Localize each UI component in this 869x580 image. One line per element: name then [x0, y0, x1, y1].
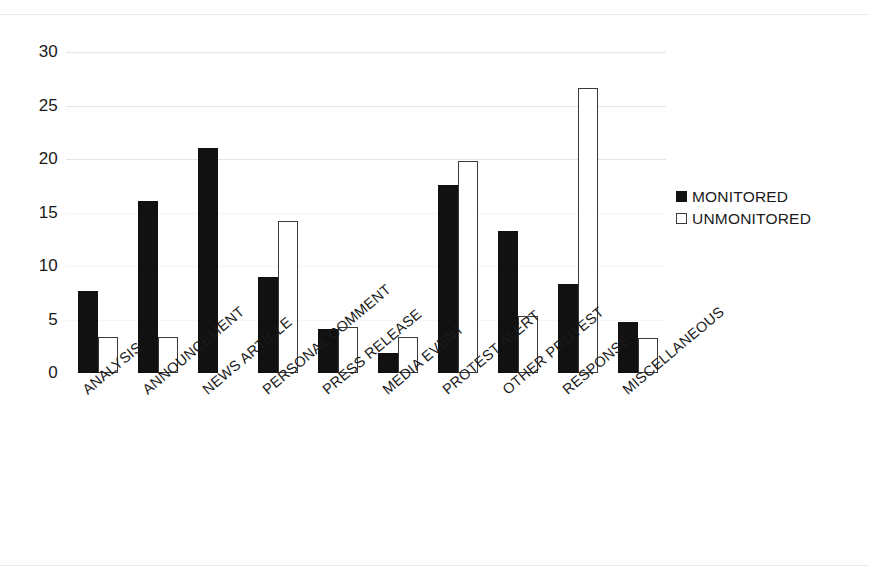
hollow-square-icon — [676, 213, 687, 224]
bar-group — [378, 52, 418, 373]
bar-unmonitored-press-release[interactable] — [338, 327, 358, 373]
y-axis-tick-15: 15 — [18, 204, 58, 221]
y-axis-tick-20: 20 — [18, 150, 58, 167]
bar-unmonitored-analysis[interactable] — [98, 337, 118, 373]
legend-item-unmonitored[interactable]: UNMONITORED — [676, 208, 811, 229]
bar-group — [558, 52, 598, 373]
y-axis-tick-5: 5 — [18, 311, 58, 328]
y-axis-tick-0: 0 — [18, 364, 58, 381]
y-axis-tick-10: 10 — [18, 257, 58, 274]
bar-monitored-miscellaneous[interactable] — [618, 322, 638, 373]
bar-group — [78, 52, 118, 373]
bar-unmonitored-protest-alert[interactable] — [458, 161, 478, 373]
bar-group — [618, 52, 658, 373]
bar-monitored-press-release[interactable] — [318, 329, 338, 373]
bar-unmonitored-announcement[interactable] — [158, 337, 178, 373]
chart-legend: MONITOREDUNMONITORED — [676, 186, 811, 230]
bar-unmonitored-other-protest[interactable] — [518, 316, 538, 373]
bar-monitored-personal-comment[interactable] — [258, 277, 278, 373]
bar-group — [198, 52, 238, 373]
y-axis-tick-labels: 051015202530 — [18, 52, 58, 373]
bar-chart: 051015202530 ANALYSISANNOUNCEMENTNEWS AR… — [0, 0, 869, 580]
legend-item-label: MONITORED — [692, 189, 788, 205]
legend-item-label: UNMONITORED — [692, 211, 811, 227]
bar-monitored-announcement[interactable] — [138, 201, 158, 373]
y-axis-tick-30: 30 — [18, 43, 58, 60]
bar-group — [498, 52, 538, 373]
bar-unmonitored-miscellaneous[interactable] — [638, 338, 658, 373]
bar-monitored-response[interactable] — [558, 284, 578, 373]
bar-unmonitored-media-event[interactable] — [398, 337, 418, 373]
filled-square-icon — [676, 191, 687, 202]
y-axis-tick-25: 25 — [18, 97, 58, 114]
bar-monitored-protest-alert[interactable] — [438, 185, 458, 373]
bar-unmonitored-personal-comment[interactable] — [278, 221, 298, 373]
legend-item-monitored[interactable]: MONITORED — [676, 186, 811, 207]
bar-group — [258, 52, 298, 373]
bar-unmonitored-response[interactable] — [578, 88, 598, 373]
bar-monitored-media-event[interactable] — [378, 353, 398, 373]
bar-monitored-other-protest[interactable] — [498, 231, 518, 373]
plot-area — [66, 52, 666, 373]
bar-monitored-news-article[interactable] — [198, 148, 218, 373]
bar-group — [138, 52, 178, 373]
bar-group — [438, 52, 478, 373]
x-axis-line — [66, 373, 666, 374]
bar-group — [318, 52, 358, 373]
bar-monitored-analysis[interactable] — [78, 291, 98, 373]
